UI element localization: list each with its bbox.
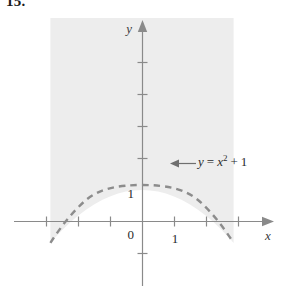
equation-label: y=x2+1: [198, 155, 247, 168]
x-axis-arrowhead: [262, 217, 274, 226]
y-axis-label: y: [124, 21, 132, 36]
y-tick-label-one: 1: [128, 186, 135, 201]
figure-container: 15. x: [0, 0, 288, 291]
equation-constant: 1: [241, 154, 248, 169]
equation-plus: +: [230, 154, 237, 169]
equation-lhs: y: [198, 154, 204, 169]
parabola-plot: x y 0 1 1: [0, 0, 288, 291]
origin-label: 0: [128, 227, 135, 242]
equation-equals: =: [207, 154, 214, 169]
equation-exponent: 2: [223, 153, 228, 163]
x-axis-label: x: [264, 228, 271, 243]
x-tick-label-one: 1: [172, 231, 179, 246]
